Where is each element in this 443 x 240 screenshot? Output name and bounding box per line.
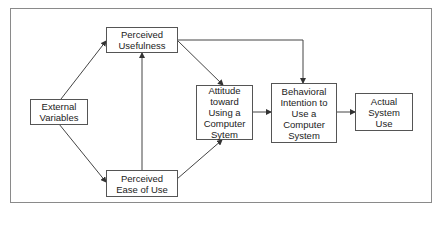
- node-actual-system-use: Actual System Use: [355, 93, 413, 131]
- node-attitude: Attitude toward Using a Computer Sytem: [196, 85, 253, 140]
- node-label-line: toward: [204, 96, 246, 107]
- node-label-line: Attitude: [204, 85, 246, 96]
- edge-ev-to-peou: [59, 124, 106, 182]
- node-label-line: Computer: [204, 118, 246, 129]
- node-label-line: Computer: [280, 119, 327, 130]
- node-perceived-usefulness: Perceived Usefulness: [106, 27, 178, 53]
- node-label-line: Sytem: [204, 129, 246, 140]
- node-external-variables: External Variables: [30, 99, 88, 125]
- node-label-line: Usefulness: [119, 40, 166, 51]
- node-perceived-ease-of-use: Perceived Ease of Use: [106, 170, 178, 197]
- edge-pu-to-attitude: [177, 40, 223, 85]
- node-label-line: System: [368, 107, 400, 118]
- node-label-line: Intention to: [280, 97, 327, 108]
- node-label-line: System: [280, 130, 327, 141]
- node-label-line: Use: [368, 118, 400, 129]
- edge-peou-to-attitude: [177, 140, 222, 179]
- node-label-line: Actual: [368, 96, 400, 107]
- edge-ev-to-pu: [61, 41, 106, 99]
- node-label-line: External: [40, 101, 79, 112]
- edge-pu-to-bi: [177, 40, 303, 83]
- node-label-line: Perceived: [116, 173, 168, 184]
- node-label-line: Perceived: [119, 29, 166, 40]
- node-label-line: Use a: [280, 108, 327, 119]
- node-label-line: Using a: [204, 107, 246, 118]
- node-behavioral-intention: Behavioral Intention to Use a Computer S…: [271, 83, 337, 143]
- node-label-line: Ease of Use: [116, 184, 168, 195]
- node-label-line: Behavioral: [280, 86, 327, 97]
- node-label-line: Variables: [40, 112, 79, 123]
